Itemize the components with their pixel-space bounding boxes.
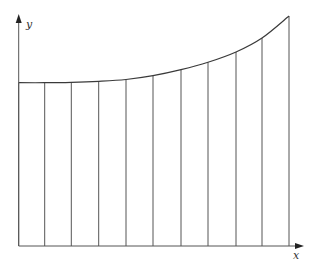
y-axis-label: y [25,18,33,31]
axes [16,14,304,249]
y-axis-arrow-icon [16,14,22,23]
x-axis-label: x [293,249,300,262]
riemann-sum-diagram: y x [0,0,317,264]
function-curve [19,16,289,83]
strip-lines [19,16,289,246]
